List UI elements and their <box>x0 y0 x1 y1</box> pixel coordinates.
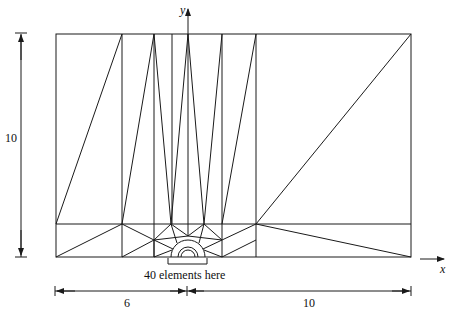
y-axis-label: y <box>180 3 185 18</box>
notch-bracket <box>168 258 207 264</box>
width-dimension <box>55 286 411 296</box>
mesh-lower-band <box>56 224 411 257</box>
mesh-upper-diagonals <box>56 34 411 224</box>
semicircle-notch <box>171 240 205 257</box>
annotation-label: 40 elements here <box>144 268 225 283</box>
left-width-label: 6 <box>124 296 130 311</box>
height-label: 10 <box>5 131 17 146</box>
right-width-label: 10 <box>303 296 315 311</box>
x-axis-label: x <box>440 262 445 277</box>
mesh-diagram <box>0 0 456 314</box>
